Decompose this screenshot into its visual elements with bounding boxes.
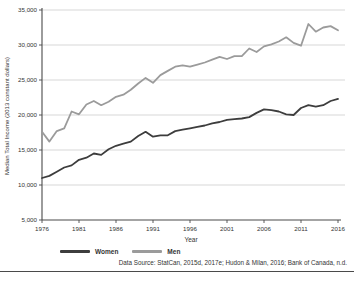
legend-label-men: Men xyxy=(167,248,180,255)
men-line-swatch xyxy=(132,250,162,253)
women-line-swatch xyxy=(60,250,90,253)
x-tick-label: 1986 xyxy=(109,225,123,232)
y-tick-label: 15,000 xyxy=(18,146,37,153)
x-tick-label: 1976 xyxy=(35,225,49,232)
y-tick-label: 20,000 xyxy=(18,111,37,118)
x-tick-label: 1991 xyxy=(146,225,160,232)
series-line-women xyxy=(42,99,338,178)
x-axis-title: Year xyxy=(42,236,340,243)
median-income-line-chart: 5,00010,00015,00020,00025,00030,00035,00… xyxy=(0,0,354,246)
legend-label-women: Women xyxy=(95,248,118,255)
income-by-sex-figure: 5,00010,00015,00020,00025,00030,00035,00… xyxy=(0,0,354,281)
y-tick-label: 25,000 xyxy=(18,76,37,83)
legend-item-women: Women xyxy=(60,248,118,255)
y-tick-label: 10,000 xyxy=(18,181,37,188)
x-tick-label: 2001 xyxy=(220,225,234,232)
bottom-divider xyxy=(0,271,354,272)
x-tick-label: 2011 xyxy=(294,225,308,232)
x-tick-label: 1996 xyxy=(183,225,197,232)
y-tick-label: 35,000 xyxy=(18,6,37,13)
y-axis-title: Median Total Income (2013 constant dolla… xyxy=(4,57,10,175)
legend-item-men: Men xyxy=(132,248,180,255)
x-tick-label: 2006 xyxy=(257,225,271,232)
y-tick-label: 5,000 xyxy=(22,216,38,223)
y-tick-label: 30,000 xyxy=(18,41,37,48)
data-source-note: Data Source: StatCan, 2015d, 2017e; Hudo… xyxy=(119,259,347,266)
x-tick-label: 2016 xyxy=(331,225,345,232)
chart-legend: Women Men xyxy=(60,248,180,255)
x-tick-label: 1981 xyxy=(72,225,86,232)
series-line-men xyxy=(42,24,338,142)
